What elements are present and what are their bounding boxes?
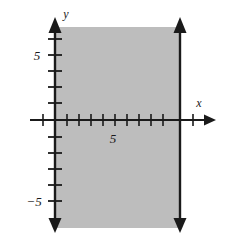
y-tick-label-5: 5	[34, 48, 41, 63]
x-axis-label: x	[195, 96, 202, 110]
y-axis-arrowhead-top-icon	[49, 17, 62, 33]
coordinate-plane-svg: x y 5 −5 5	[0, 0, 232, 235]
y-axis-label: y	[62, 7, 69, 21]
boundary-arrowhead-top-icon	[174, 17, 187, 33]
x-tick-label-5: 5	[110, 131, 117, 146]
graph-figure: x y 5 −5 5	[0, 0, 232, 235]
x-axis-arrowhead-icon	[204, 115, 216, 126]
shaded-region	[55, 27, 180, 228]
y-tick-label-negative-5: −5	[26, 194, 42, 209]
